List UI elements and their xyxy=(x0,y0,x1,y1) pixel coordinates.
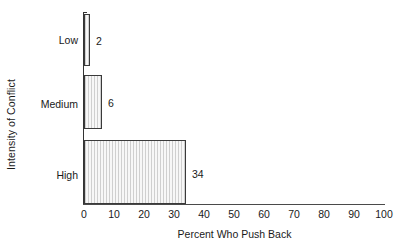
y-tick-label-medium: Medium xyxy=(16,99,78,110)
bar-value-high: 34 xyxy=(192,169,204,180)
x-tick-0: 0 xyxy=(81,209,87,220)
bar-low[interactable] xyxy=(84,14,90,66)
bar-chart: Intensity of Conflict Low Medium High 2 … xyxy=(0,0,407,249)
y-tick-labels: Low Medium High xyxy=(16,0,78,249)
x-tick-80: 80 xyxy=(318,209,330,220)
bar-value-medium: 6 xyxy=(108,98,114,109)
y-axis-top-tick xyxy=(83,12,87,13)
x-tick-20: 20 xyxy=(138,209,150,220)
x-axis-line xyxy=(83,204,385,205)
x-tick-50: 50 xyxy=(228,209,240,220)
bar-high[interactable] xyxy=(84,140,186,204)
y-tick-label-high: High xyxy=(16,170,78,181)
x-tick-40: 40 xyxy=(198,209,210,220)
y-tick-label-low: Low xyxy=(16,35,78,46)
bar-value-low: 2 xyxy=(96,36,102,47)
x-tick-70: 70 xyxy=(288,209,300,220)
x-tick-10: 10 xyxy=(108,209,120,220)
x-tick-60: 60 xyxy=(258,209,270,220)
x-axis-title: Percent Who Push Back xyxy=(84,228,385,240)
x-tick-100: 100 xyxy=(375,209,393,220)
x-tick-90: 90 xyxy=(348,209,360,220)
plot-area: 2 6 34 0 10 20 30 40 50 60 70 80 90 100 xyxy=(84,12,385,204)
bar-medium[interactable] xyxy=(84,75,102,129)
x-tick-30: 30 xyxy=(168,209,180,220)
